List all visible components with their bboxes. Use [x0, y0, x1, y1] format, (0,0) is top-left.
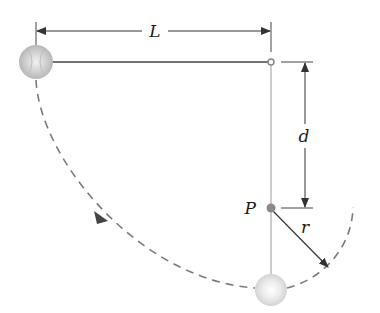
pendulum-diagram: L d r P [0, 0, 380, 313]
d-label: d [299, 126, 310, 146]
trajectory-arc-main [36, 80, 255, 288]
peg-label: P [244, 198, 257, 218]
ball-bottom-position [255, 274, 287, 306]
length-dimension: L [36, 21, 271, 52]
direction-arrow-icon [94, 211, 108, 224]
radius-label: r [301, 217, 310, 237]
ball-start-position [19, 45, 53, 79]
pivot-point [268, 59, 274, 65]
trajectory-arc-small [287, 207, 353, 288]
peg-point [267, 204, 276, 213]
length-label: L [148, 21, 160, 41]
peg-distance-dimension: d [281, 62, 313, 208]
